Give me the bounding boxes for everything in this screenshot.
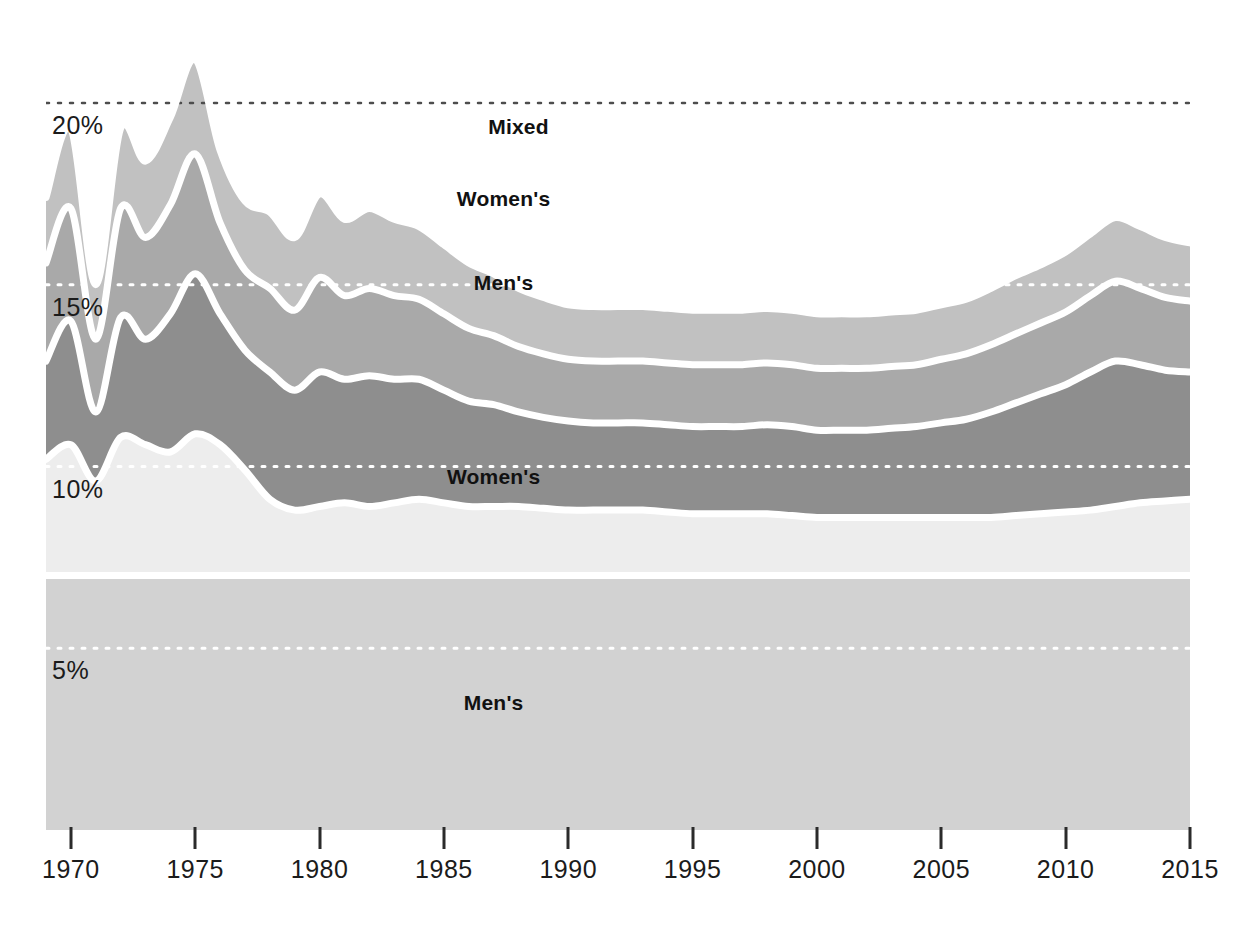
y-axis-label-5: 5% bbox=[52, 656, 89, 685]
x-axis-label-1995: 1995 bbox=[664, 855, 722, 884]
y-axis-label-20: 20% bbox=[52, 111, 104, 140]
band-label-3-womens: Women's bbox=[447, 465, 541, 489]
x-axis-label-2005: 2005 bbox=[912, 855, 970, 884]
area-band-mens-bottom bbox=[46, 576, 1190, 830]
x-axis-label-2010: 2010 bbox=[1037, 855, 1095, 884]
x-axis-label-1990: 1990 bbox=[539, 855, 597, 884]
x-axis-label-2015: 2015 bbox=[1161, 855, 1219, 884]
x-axis-label-1985: 1985 bbox=[415, 855, 473, 884]
x-axis-tick-1990 bbox=[567, 827, 570, 849]
stacked-area-chart bbox=[0, 0, 1244, 945]
x-axis-tick-2005 bbox=[940, 827, 943, 849]
x-axis-tick-1980 bbox=[318, 827, 321, 849]
band-label-4-mens: Men's bbox=[464, 691, 524, 715]
x-axis-tick-1995 bbox=[691, 827, 694, 849]
band-label-1-womens: Women's bbox=[457, 187, 551, 211]
chart-root: 5%10%15%20%19701975198019851990199520002… bbox=[0, 0, 1244, 945]
x-axis-label-2000: 2000 bbox=[788, 855, 846, 884]
x-axis-tick-1985 bbox=[442, 827, 445, 849]
x-axis-label-1980: 1980 bbox=[291, 855, 349, 884]
x-axis-tick-2010 bbox=[1064, 827, 1067, 849]
x-axis-tick-1970 bbox=[69, 827, 72, 849]
band-label-2-mens: Men's bbox=[474, 271, 534, 295]
x-axis-tick-2015 bbox=[1189, 827, 1192, 849]
x-axis-label-1970: 1970 bbox=[42, 855, 100, 884]
band-label-0-mixed: Mixed bbox=[488, 115, 549, 139]
y-axis-label-15: 15% bbox=[52, 293, 104, 322]
y-axis-label-10: 10% bbox=[52, 475, 104, 504]
x-axis-tick-1975 bbox=[194, 827, 197, 849]
x-axis-label-1975: 1975 bbox=[166, 855, 224, 884]
x-axis-tick-2000 bbox=[815, 827, 818, 849]
